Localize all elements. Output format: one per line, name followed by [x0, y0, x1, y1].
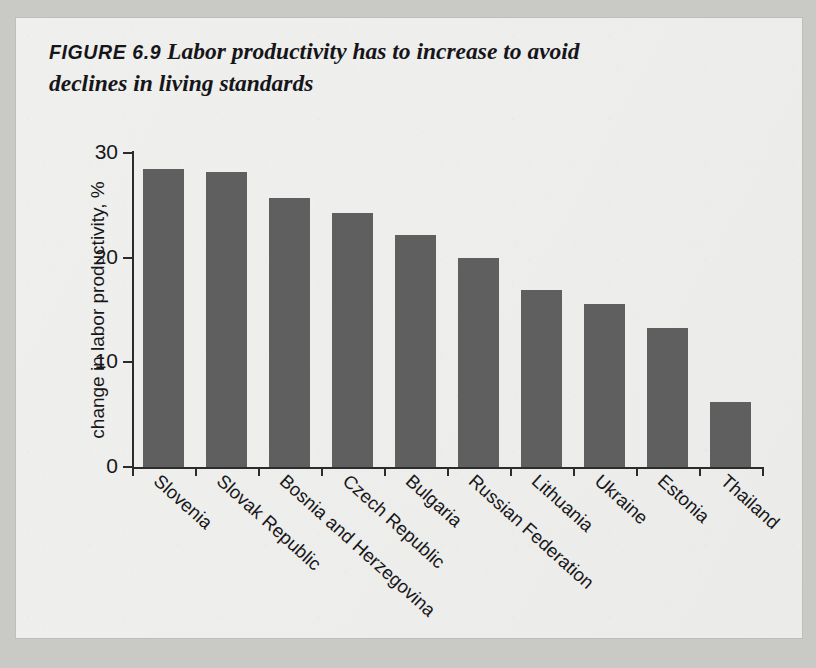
y-tick-label: 10 [95, 349, 118, 373]
bar [269, 198, 310, 467]
bar [458, 258, 499, 467]
x-category-label: Ukraine [590, 470, 652, 529]
scanned-page: FIGURE 6.9 Labor productivity has to inc… [0, 0, 816, 668]
bar [143, 169, 184, 467]
paper-sheet: FIGURE 6.9 Labor productivity has to inc… [16, 18, 802, 638]
x-axis-category-labels: SloveniaSlovak RepublicBosnia and Herzeg… [132, 470, 792, 630]
bar [206, 172, 247, 467]
bar [395, 235, 436, 467]
y-tick-label: 20 [95, 245, 118, 269]
y-axis-title: change in labor productivity, % [87, 181, 109, 438]
bar [584, 304, 625, 467]
y-tick-label: 0 [106, 454, 118, 478]
x-category-label: Thailand [716, 470, 783, 534]
x-category-label: Estonia [653, 470, 714, 528]
y-tick-mark [123, 152, 132, 154]
x-category-label: Slovenia [149, 470, 216, 534]
bar [647, 328, 688, 467]
y-tick-label: 30 [95, 140, 118, 164]
bar [710, 402, 751, 467]
bar-chart: change in labor productivity, % 0102030 … [16, 18, 802, 638]
plot-area: change in labor productivity, % 0102030 [132, 153, 762, 467]
y-tick-mark [123, 361, 132, 363]
y-tick-mark [123, 466, 132, 468]
bar [521, 290, 562, 467]
bar [332, 213, 373, 467]
bar-series [132, 153, 762, 467]
y-tick-mark [123, 257, 132, 259]
